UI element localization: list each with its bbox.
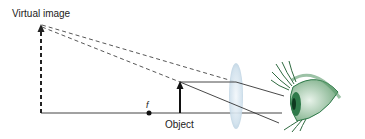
dashed-ray-lower bbox=[42, 27, 180, 82]
dashed-ray-upper bbox=[42, 25, 236, 82]
focal-point-label: f bbox=[146, 100, 149, 110]
converging-lens bbox=[229, 63, 243, 129]
eye-icon bbox=[271, 61, 340, 132]
focal-point-dot bbox=[147, 111, 152, 116]
virtual-image-label: Virtual image bbox=[12, 8, 70, 19]
object-label: Object bbox=[165, 119, 194, 130]
